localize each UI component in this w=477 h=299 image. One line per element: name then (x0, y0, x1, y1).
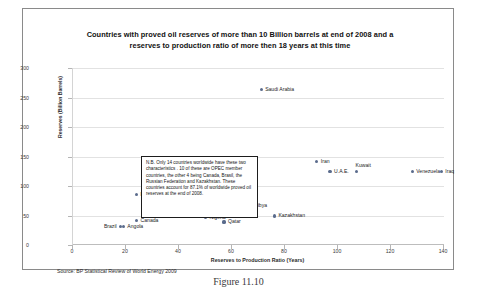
scatter-point-marker (273, 214, 276, 217)
figure-frame: Countries with proved oil reserves of mo… (22, 8, 454, 270)
x-axis-tick-mark (284, 245, 285, 249)
gridline (73, 127, 444, 128)
x-axis-tick-mark (390, 245, 391, 249)
y-axis-tick-label: 200 (0, 124, 29, 130)
source-note: Source: BP Statistical Review of World E… (57, 268, 177, 274)
scatter-point-label: Iraq (445, 168, 454, 174)
scatter-point-marker (260, 88, 263, 91)
x-axis-tick-mark (231, 245, 232, 249)
scatter-point-marker (355, 170, 358, 173)
gridline (73, 98, 444, 99)
chart-title: Countries with proved oil reserves of mo… (59, 29, 421, 51)
y-axis-tick-label: 250 (0, 95, 29, 101)
figure-caption: Figure 11.10 (0, 276, 477, 287)
scatter-point-marker (411, 170, 414, 173)
x-axis-tick-mark (337, 245, 338, 249)
scatter-point-label: Kazakhstan (278, 212, 305, 218)
scatter-point-label: Qatar (228, 218, 241, 224)
y-axis-tick-label: 0 (0, 242, 29, 248)
y-axis-tick-label: 300 (0, 65, 29, 71)
scatter-point-marker (328, 170, 331, 173)
gridline (73, 68, 444, 69)
scatter-point-label: Angola (127, 223, 143, 229)
chart-title-line-1: Countries with proved oil reserves of mo… (59, 29, 421, 40)
x-axis-title: Reserves to Production Ratio (Years) (72, 257, 443, 263)
scatter-point-label: Brazil (104, 223, 117, 229)
scatter-point-label: Canada (141, 217, 159, 223)
scatter-point-label: Saudi Arabia (265, 86, 294, 92)
y-axis-tick-label: 100 (0, 183, 29, 189)
gridline (73, 157, 444, 158)
scatter-point-marker (122, 225, 125, 228)
x-axis-tick-mark (125, 245, 126, 249)
x-axis-line (73, 244, 444, 245)
y-axis-tick-label: 50 (0, 213, 29, 219)
x-axis-tick-mark (178, 245, 179, 249)
scatter-point-label: Iran (321, 158, 330, 164)
scatter-point-marker (222, 220, 225, 223)
chart-title-line-2: reserves to production ratio of more the… (59, 40, 421, 51)
scatter-point-marker (135, 193, 138, 196)
scatter-point-label: U.A.E. (334, 168, 349, 174)
x-axis-tick-mark (72, 245, 73, 249)
scatter-point-marker (135, 219, 138, 222)
gridline (73, 216, 444, 217)
annotation-callout: N.B. Only 14 countries worldwide have th… (141, 156, 258, 218)
y-axis-tick-label: 150 (0, 154, 29, 160)
x-axis-tick-mark (443, 245, 444, 249)
y-axis-title: Reserves (Billion Barrels) (57, 52, 63, 162)
scatter-point-label: Venezuela (416, 168, 440, 174)
scatter-point-marker (440, 170, 443, 173)
scatter-point-marker (315, 160, 318, 163)
plot-area: Saudi ArabiaIranIraqU.A.E.KuwaitVenezuel… (72, 68, 443, 245)
gridline (73, 186, 444, 187)
scatter-point-label: Kuwait (356, 162, 371, 168)
